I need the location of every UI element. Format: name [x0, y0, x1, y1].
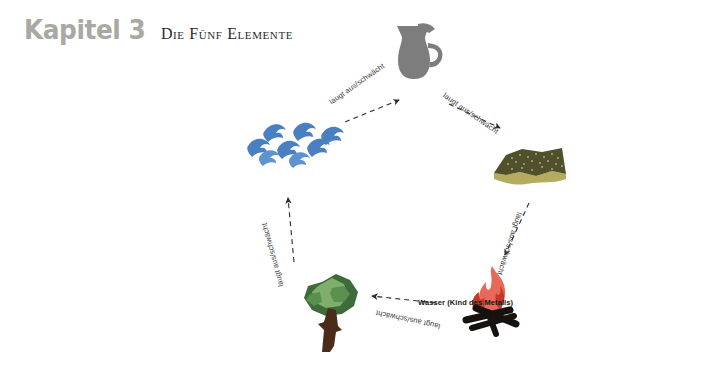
tree-icon [292, 268, 364, 354]
pitcher-icon [385, 16, 447, 82]
arrow-wasser-to-metall [345, 100, 399, 122]
waves-icon [238, 120, 350, 172]
soil-slab-icon [492, 146, 570, 186]
five-elements-cycle-diagram: Metall (Kind der Erde) Erde (Kind des Fe… [0, 0, 704, 367]
element-node-wasser[interactable]: Wasser (Kind des Metalls) [238, 120, 350, 172]
element-node-metall[interactable]: Metall (Kind der Erde) [385, 16, 447, 82]
element-node-holz[interactable]: Holz (Kind des Wassers) [292, 268, 364, 354]
arrow-holz-to-wasser [288, 198, 294, 262]
element-node-erde[interactable]: Erde (Kind des Feuers) [492, 146, 570, 186]
element-label-wasser: Wasser (Kind des Metalls) [418, 298, 513, 307]
